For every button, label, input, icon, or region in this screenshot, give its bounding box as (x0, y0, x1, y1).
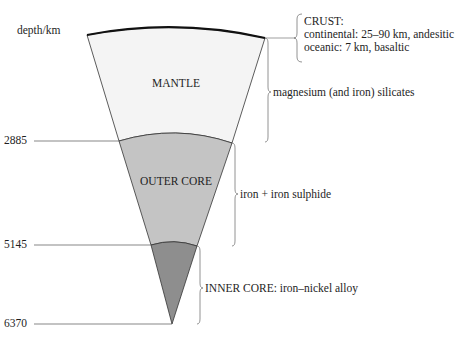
mantle-composition: magnesium (and iron) silicates (273, 86, 414, 99)
mantle-label: MANTLE (152, 77, 200, 89)
outer-core-composition: iron + iron sulphide (240, 188, 331, 201)
crust-oceanic: oceanic: 7 km, basaltic (304, 41, 409, 54)
depth-tick-2885: 2885 (4, 134, 27, 147)
crust-continental: continental: 25–90 km, andesitic (304, 28, 454, 41)
inner-core-composition: INNER CORE: iron–nickel alloy (205, 282, 358, 295)
depth-tick-6370: 6370 (4, 317, 27, 330)
inner-core-brace (197, 246, 203, 324)
outer-core-region (119, 133, 232, 246)
inner-core-region (151, 242, 197, 324)
crust-brace (294, 14, 302, 62)
outer-core-label: OUTER CORE (140, 175, 212, 187)
mantle-brace (265, 38, 271, 142)
outer-core-brace (232, 143, 238, 246)
depth-axis-label: depth/km (17, 24, 60, 37)
depth-tick-5145: 5145 (4, 238, 27, 251)
crust-title: CRUST: (304, 15, 344, 28)
